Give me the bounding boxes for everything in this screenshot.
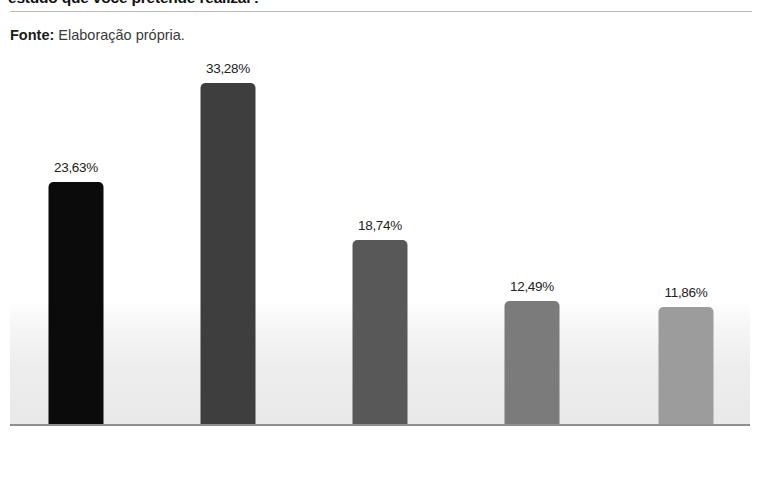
source-value: Elaboração própria.	[58, 27, 185, 43]
bar-2[interactable]	[353, 240, 408, 424]
bar-group-3: 12,49%	[456, 55, 608, 424]
bars-container: 23,63% 33,28% 18,74% 12,49% 11,86%	[0, 55, 762, 424]
x-axis-line	[10, 424, 750, 426]
bar-value-1: 33,28%	[206, 61, 250, 76]
bar-group-2: 18,74%	[304, 55, 456, 424]
bar-3[interactable]	[505, 301, 560, 424]
bar-chart: 23,63% 33,28% 18,74% 12,49% 11,86% Conco…	[0, 55, 762, 488]
bar-value-0: 23,63%	[54, 160, 98, 175]
horizontal-rule	[10, 11, 752, 12]
source-label: Fonte:	[10, 27, 54, 43]
clipped-title-text: estudo que você pretende realizar?	[8, 0, 428, 7]
bar-0[interactable]	[49, 182, 104, 424]
bar-4[interactable]	[659, 307, 714, 424]
bar-group-4: 11,86%	[610, 55, 762, 424]
bar-value-4: 11,86%	[665, 285, 708, 300]
bar-group-1: 33,28%	[152, 55, 304, 424]
bar-1[interactable]	[201, 83, 256, 424]
bar-value-3: 12,49%	[510, 279, 554, 294]
clipped-chapter-title: estudo que você pretende realizar?	[8, 0, 428, 7]
source-line: Fonte: Elaboração própria.	[10, 26, 185, 44]
bar-value-2: 18,74%	[358, 218, 402, 233]
bar-group-0: 23,63%	[0, 55, 152, 424]
